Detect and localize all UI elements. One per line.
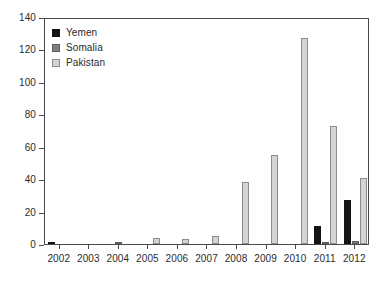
yemen-swatch: [52, 29, 60, 37]
bar-pakistan-2007: [212, 236, 219, 244]
y-tick-mark: [39, 50, 44, 51]
x-tick-label: 2006: [166, 253, 189, 264]
legend-label: Yemen: [66, 27, 97, 39]
y-tick-mark: [39, 18, 44, 19]
legend-label: Somalia: [66, 42, 103, 54]
legend-item-pakistan: Pakistan: [52, 56, 138, 69]
y-tick-label: 60: [25, 141, 36, 154]
pakistan-swatch: [52, 59, 60, 67]
x-tick-mark: [59, 245, 60, 249]
chart-legend: YemenSomaliaPakistan: [52, 26, 138, 71]
x-axis: 2002200320042005200620072008200920102011…: [44, 245, 369, 273]
legend-item-somalia: Somalia: [52, 41, 138, 54]
bar-pakistan-2005: [153, 238, 160, 244]
x-tick-mark: [177, 245, 178, 249]
bar-pakistan-2008: [242, 182, 249, 244]
x-tick-mark: [236, 245, 237, 249]
y-tick-label: 0: [30, 238, 36, 251]
y-tick-mark: [39, 115, 44, 116]
y-tick-mark: [39, 213, 44, 214]
x-tick-label: 2008: [225, 253, 248, 264]
x-tick-label: 2010: [284, 253, 307, 264]
x-tick-label: 2012: [343, 253, 366, 264]
bar-group: [222, 19, 252, 244]
y-tick-mark: [39, 83, 44, 84]
bar-group: [193, 19, 223, 244]
x-axis-tick: 2003: [74, 245, 104, 273]
bar-pakistan-2010: [301, 38, 308, 244]
x-tick-mark: [147, 245, 148, 249]
x-tick-mark: [325, 245, 326, 249]
x-tick-mark: [266, 245, 267, 249]
x-axis-tick: 2002: [44, 245, 74, 273]
bar-chart: 020406080100120140 200220032004200520062…: [0, 0, 386, 281]
x-axis-tick: 2008: [221, 245, 251, 273]
bar-somalia-2011: [322, 242, 329, 244]
x-tick-label: 2009: [254, 253, 277, 264]
x-axis-tick: 2006: [162, 245, 192, 273]
x-axis-tick: 2011: [310, 245, 340, 273]
bar-somalia-2004: [115, 242, 122, 244]
x-tick-label: 2007: [195, 253, 218, 264]
y-tick-label: 80: [25, 108, 36, 121]
x-tick-label: 2002: [47, 253, 70, 264]
bar-group: [311, 19, 341, 244]
x-tick-mark: [354, 245, 355, 249]
x-axis-tick: 2004: [103, 245, 133, 273]
bar-yemen-2012: [344, 200, 351, 244]
x-tick-mark: [295, 245, 296, 249]
x-tick-label: 2005: [136, 253, 159, 264]
x-tick-mark: [88, 245, 89, 249]
bar-group: [134, 19, 164, 244]
x-axis-tick: 2007: [192, 245, 222, 273]
x-axis-tick: 2005: [133, 245, 163, 273]
legend-label: Pakistan: [66, 57, 105, 69]
x-tick-label: 2004: [107, 253, 130, 264]
bar-group: [163, 19, 193, 244]
x-tick-label: 2003: [77, 253, 100, 264]
bar-yemen-2011: [314, 226, 321, 244]
bar-pakistan-2006: [182, 239, 189, 244]
y-tick-label: 120: [19, 43, 36, 56]
bar-group: [340, 19, 370, 244]
y-tick-label: 100: [19, 76, 36, 89]
legend-item-yemen: Yemen: [52, 26, 138, 39]
x-axis-tick: 2010: [280, 245, 310, 273]
bar-somalia-2012: [352, 241, 359, 244]
y-tick-label: 140: [19, 11, 36, 24]
bar-group: [252, 19, 282, 244]
x-tick-mark: [118, 245, 119, 249]
y-axis: 020406080100120140: [0, 0, 44, 246]
x-tick-mark: [206, 245, 207, 249]
bar-yemen-2002: [48, 242, 55, 244]
y-tick-label: 40: [25, 173, 36, 186]
bar-pakistan-2011: [330, 126, 337, 244]
x-axis-tick: 2012: [339, 245, 369, 273]
y-tick-mark: [39, 148, 44, 149]
bar-group: [281, 19, 311, 244]
x-axis-tick: 2009: [251, 245, 281, 273]
y-tick-label: 20: [25, 206, 36, 219]
y-tick-mark: [39, 180, 44, 181]
bar-pakistan-2012: [360, 178, 367, 244]
bar-pakistan-2009: [271, 155, 278, 244]
x-tick-label: 2011: [314, 253, 336, 264]
somalia-swatch: [52, 44, 60, 52]
